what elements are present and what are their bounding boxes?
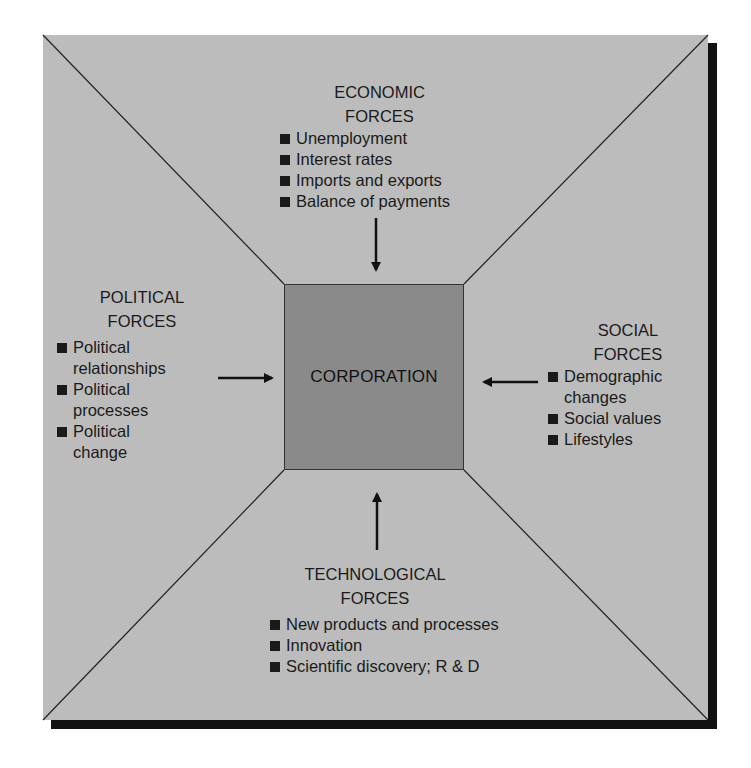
- economic-title-2: FORCES: [282, 104, 477, 128]
- social-item: Lifestyles: [548, 429, 708, 450]
- corporation-label: CORPORATION: [310, 367, 438, 387]
- economic-forces: ECONOMIC FORCES Unemployment Interest ra…: [282, 80, 477, 212]
- economic-item: Interest rates: [280, 149, 477, 170]
- political-item: Political change: [57, 421, 227, 463]
- political-title-1: POLITICAL: [57, 285, 227, 309]
- social-item: Social values: [548, 408, 708, 429]
- technological-forces: TECHNOLOGICAL FORCES New products and pr…: [270, 562, 499, 677]
- economic-item: Balance of payments: [280, 191, 477, 212]
- economic-item: Imports and exports: [280, 170, 477, 191]
- social-title-2: FORCES: [548, 342, 708, 366]
- social-forces: SOCIAL FORCES Demographic changes Social…: [548, 318, 708, 450]
- social-title-1: SOCIAL: [548, 318, 708, 342]
- corporation-box: CORPORATION: [284, 284, 464, 470]
- political-forces: POLITICAL FORCES Political relationships…: [57, 285, 227, 463]
- economic-item: Unemployment: [280, 128, 477, 149]
- technological-item: Scientific discovery; R & D: [270, 656, 499, 677]
- political-title-2: FORCES: [57, 309, 227, 333]
- political-item: Political processes: [57, 379, 227, 421]
- social-item: Demographic changes: [548, 366, 708, 408]
- political-item: Political relationships: [57, 337, 227, 379]
- technological-item: New products and processes: [270, 614, 499, 635]
- economic-title-1: ECONOMIC: [282, 80, 477, 104]
- technological-title-2: FORCES: [270, 586, 480, 610]
- technological-item: Innovation: [270, 635, 499, 656]
- technological-title-1: TECHNOLOGICAL: [270, 562, 480, 586]
